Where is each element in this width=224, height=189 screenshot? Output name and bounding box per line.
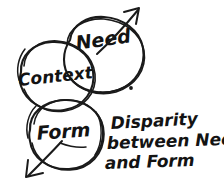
arrow-form-down-left (26, 141, 86, 177)
annotation-disparity-note: Disparity between Need and Form (104, 108, 224, 173)
hand-drawn-diagram: Need Context Form (0, 0, 224, 189)
period-dot-mark (129, 86, 133, 90)
arrow-form-flick (60, 143, 86, 147)
sketch-canvas: Need Context Form (0, 0, 224, 189)
circle-context-label: Context (17, 62, 95, 90)
circle-form-label: Form (36, 118, 91, 144)
annotation-line-2: between Need (106, 128, 224, 153)
annotation-line-3: and Form (104, 150, 194, 173)
